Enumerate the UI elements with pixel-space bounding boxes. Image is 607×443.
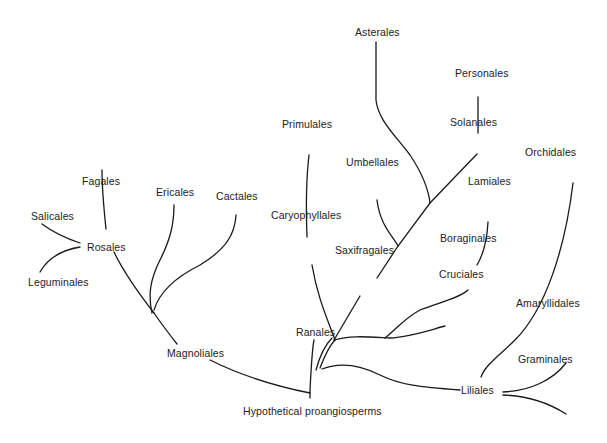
node-primulales: Primulales (282, 118, 332, 130)
edge-liliales-orchidales (481, 183, 573, 377)
node-boraginales: Boraginales (440, 232, 497, 244)
edge-junction-rosales (114, 252, 154, 313)
node-amaryllidales: Amaryllidales (516, 297, 580, 309)
edge-liliales-amaryllidales (503, 363, 566, 392)
edge-junction-saxifragales (334, 296, 360, 340)
edge-junction-cactales (154, 215, 236, 310)
edge-proangiosperms-ranales (310, 340, 314, 398)
phylogenetic-tree (0, 0, 607, 443)
edge-proangiosperms-magnoliales (210, 360, 310, 393)
node-salicales: Salicales (31, 210, 74, 222)
node-umbellales: Umbellales (346, 156, 399, 168)
edge-saxifragales-asterales (376, 42, 430, 203)
edge-rosales-leguminales (40, 247, 80, 272)
node-lamiales: Lamiales (468, 175, 511, 187)
node-liliales: Liliales (461, 384, 494, 396)
node-cruciales: Cruciales (439, 268, 484, 280)
edge-saxifragales-umbellales (377, 200, 398, 246)
edge-ranales-liliales (322, 365, 460, 390)
node-magnoliales: Magnoliales (167, 347, 224, 359)
node-personales: Personales (455, 67, 509, 79)
node-leguminales: Leguminales (28, 276, 89, 288)
edge-junction-ericales (150, 205, 174, 313)
edge-saxifragales-solanales (377, 154, 477, 278)
node-rosales: Rosales (87, 241, 126, 253)
node-ericales: Ericales (156, 186, 194, 198)
node-graminales: Graminales (518, 353, 573, 365)
edge-magnoliales-junction (154, 313, 177, 344)
node-caryophyllales: Caryophyllales (271, 209, 341, 221)
edge-liliales-graminales (503, 395, 566, 414)
edge-rosales-salicales (42, 224, 80, 243)
node-orchidales: Orchidales (525, 146, 576, 158)
node-solanales: Solanales (450, 116, 497, 128)
node-hypothetical-proangiosperms: Hypothetical proangiosperms (243, 405, 382, 417)
node-saxifragales: Saxifragales (335, 244, 394, 256)
edge-caryophyllales-primulales (306, 155, 309, 237)
node-fagales: Fagales (82, 175, 120, 187)
node-cactales: Cactales (216, 190, 258, 202)
edge-junction-cruciales (334, 326, 445, 340)
edge-ranales-junction (316, 338, 332, 370)
node-asterales: Asterales (355, 26, 400, 38)
node-ranales: Ranales (296, 326, 335, 338)
